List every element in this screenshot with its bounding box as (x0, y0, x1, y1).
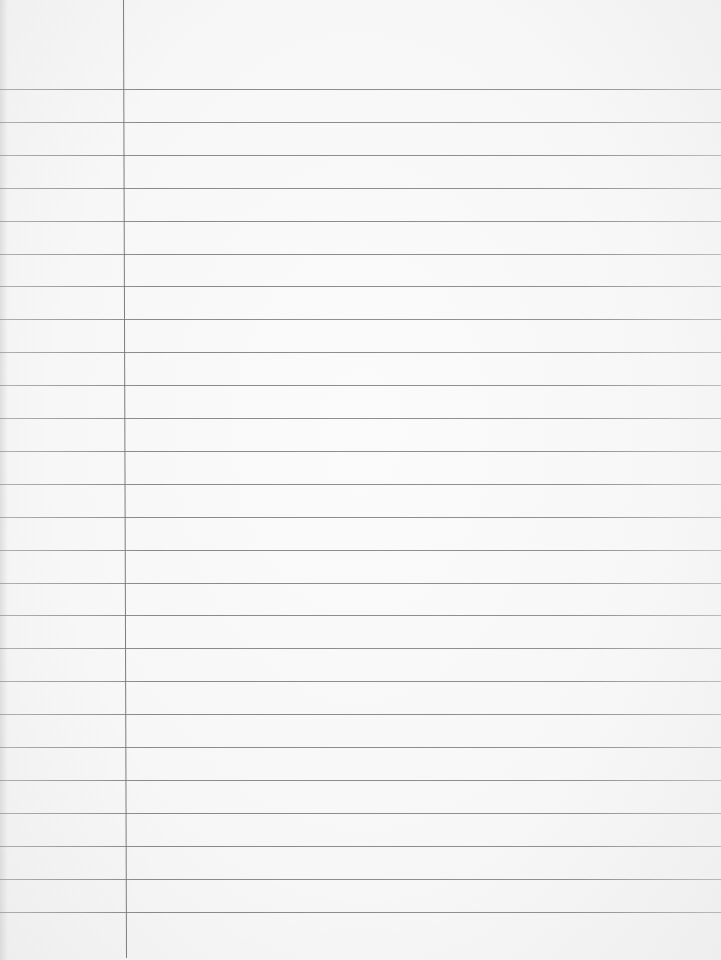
ruled-line (0, 517, 721, 518)
ruled-line (0, 615, 721, 616)
paper-edge-shadow (0, 0, 8, 960)
ruled-line (0, 319, 721, 320)
ruled-line (0, 484, 721, 485)
ruled-line (0, 352, 721, 353)
ruled-line (0, 780, 721, 781)
ruled-line (0, 813, 721, 814)
margin-line (123, 0, 127, 958)
ruled-line (0, 451, 721, 452)
ruled-line (0, 188, 721, 189)
ruled-line (0, 385, 721, 386)
ruled-line (0, 583, 721, 584)
ruled-line (0, 648, 721, 649)
ruled-line (0, 846, 721, 847)
ruled-line (0, 714, 721, 715)
ruled-line (0, 221, 721, 222)
lined-paper (0, 0, 721, 960)
ruled-line (0, 747, 721, 748)
ruled-line (0, 681, 721, 682)
ruled-line (0, 550, 721, 551)
ruled-line (0, 254, 721, 255)
ruled-line (0, 155, 721, 156)
ruled-line (0, 912, 721, 913)
ruled-line (0, 286, 721, 287)
ruled-line (0, 879, 721, 880)
ruled-line (0, 89, 721, 90)
ruled-line (0, 122, 721, 123)
ruled-line (0, 418, 721, 419)
